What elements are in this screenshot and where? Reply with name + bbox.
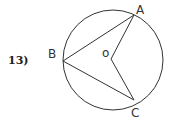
circle-diagram: A B C o xyxy=(0,0,172,122)
label-a: A xyxy=(136,3,145,17)
segment-oa xyxy=(111,15,134,59)
label-b: B xyxy=(48,47,56,61)
label-c: C xyxy=(131,106,139,120)
circle xyxy=(63,10,163,110)
label-o: o xyxy=(102,46,109,60)
segment-ba xyxy=(63,15,134,61)
